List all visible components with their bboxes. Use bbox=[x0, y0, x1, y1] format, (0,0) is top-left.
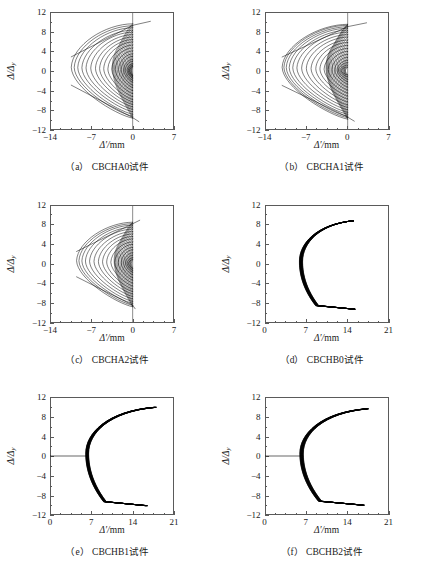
panel-caption: （d） CBCHB0试件 bbox=[215, 352, 429, 366]
y-tick-label: 4 bbox=[42, 432, 47, 441]
x-axis-label: Δ′/mm bbox=[314, 525, 339, 535]
y-axis-label: Δ/Δy bbox=[6, 255, 17, 272]
x-tick-label: 0 bbox=[262, 326, 267, 335]
plot-area: 12840−4−8−12071421 bbox=[265, 205, 389, 323]
x-tick-label: 0 bbox=[48, 518, 53, 527]
y-tick-label: −8 bbox=[36, 491, 46, 500]
y-tick-label: 12 bbox=[37, 393, 46, 402]
y-axis-label: Δ/Δy bbox=[6, 63, 17, 80]
curve-layer bbox=[50, 397, 174, 515]
x-tick-label: 21 bbox=[384, 326, 393, 335]
panel-a: Δ/ΔyΔ′/mm（a） CBCHA0试件12840−4−8−12−14−707 bbox=[0, 0, 215, 193]
y-tick-label: 8 bbox=[42, 27, 47, 36]
y-tick-label: 8 bbox=[256, 27, 261, 36]
y-tick-label: 4 bbox=[42, 47, 47, 56]
panel-d: Δ/ΔyΔ′/mm（d） CBCHB0试件12840−4−8−12071421 bbox=[215, 193, 429, 386]
y-tick-label: −8 bbox=[251, 298, 261, 307]
x-tick-major bbox=[389, 319, 390, 323]
y-tick-major bbox=[265, 323, 269, 324]
y-tick-label: 4 bbox=[256, 47, 261, 56]
x-axis-label: Δ′/mm bbox=[314, 333, 339, 343]
y-tick-label: −8 bbox=[36, 106, 46, 115]
x-tick-label: −14 bbox=[43, 133, 57, 142]
x-tick-major bbox=[389, 511, 390, 515]
y-tick-label: −4 bbox=[36, 86, 46, 95]
y-tick-label: 12 bbox=[37, 8, 46, 17]
y-tick-label: 4 bbox=[256, 432, 261, 441]
y-tick-label: −4 bbox=[251, 279, 261, 288]
y-tick-label: 0 bbox=[256, 259, 261, 268]
x-tick-label: 0 bbox=[262, 518, 267, 527]
y-axis-label: Δ/Δy bbox=[220, 255, 231, 272]
x-tick-label: 7 bbox=[304, 326, 309, 335]
y-axis-label: Δ/Δy bbox=[6, 448, 17, 465]
curve-layer bbox=[50, 12, 174, 130]
y-tick-label: 12 bbox=[252, 200, 261, 209]
panel-caption: （f） CBCHB2试件 bbox=[215, 544, 429, 558]
y-tick-label: 12 bbox=[37, 200, 46, 209]
panel-caption: （a） CBCHA0试件 bbox=[0, 159, 215, 173]
y-tick-major bbox=[50, 515, 54, 516]
y-tick-label: 8 bbox=[42, 220, 47, 229]
x-tick-label: −7 bbox=[87, 326, 97, 335]
y-tick-label: −8 bbox=[251, 491, 261, 500]
x-tick-major bbox=[389, 126, 390, 130]
y-tick-label: −4 bbox=[251, 86, 261, 95]
x-tick-label: 0 bbox=[130, 133, 135, 142]
y-tick-label: −12 bbox=[246, 318, 260, 327]
x-tick-label: 0 bbox=[345, 133, 350, 142]
y-tick-label: 12 bbox=[252, 393, 261, 402]
y-tick-label: −12 bbox=[32, 511, 46, 520]
x-tick-label: 21 bbox=[170, 518, 179, 527]
plot-area: 12840−4−8−12071421 bbox=[50, 397, 174, 515]
y-tick-label: 8 bbox=[256, 220, 261, 229]
x-tick-major bbox=[174, 126, 175, 130]
y-tick-major bbox=[265, 515, 269, 516]
y-tick-label: 8 bbox=[256, 412, 261, 421]
y-tick-label: −12 bbox=[246, 511, 260, 520]
y-tick-label: 4 bbox=[256, 239, 261, 248]
y-tick-label: 0 bbox=[42, 67, 47, 76]
y-tick-major bbox=[50, 323, 54, 324]
plot-area: 12840−4−8−12−14−707 bbox=[50, 12, 174, 130]
panel-caption: （e） CBCHB1试件 bbox=[0, 544, 215, 558]
y-tick-label: −8 bbox=[36, 298, 46, 307]
x-axis-label: Δ′/mm bbox=[99, 333, 124, 343]
y-tick-label: 0 bbox=[42, 452, 47, 461]
panel-f: Δ/ΔyΔ′/mm（f） CBCHB2试件12840−4−8−12071421 bbox=[215, 385, 429, 578]
x-tick-label: −7 bbox=[301, 133, 311, 142]
y-tick-label: 0 bbox=[256, 67, 261, 76]
y-tick-label: 0 bbox=[42, 259, 47, 268]
x-axis-label: Δ′/mm bbox=[314, 140, 339, 150]
panel-caption: （b） CBCHA1试件 bbox=[215, 159, 429, 173]
panel-b: Δ/ΔyΔ′/mm（b） CBCHA1试件12840−4−8−12−14−707 bbox=[215, 0, 429, 193]
x-tick-major bbox=[174, 511, 175, 515]
plot-area: 12840−4−8−12071421 bbox=[265, 397, 389, 515]
x-tick-label: 14 bbox=[343, 518, 352, 527]
plot-area: 12840−4−8−12−14−707 bbox=[50, 205, 174, 323]
plot-area: 12840−4−8−12−14−707 bbox=[265, 12, 389, 130]
x-tick-label: −7 bbox=[87, 133, 97, 142]
curve-layer bbox=[50, 205, 174, 323]
x-tick-label: 7 bbox=[386, 133, 391, 142]
x-tick-label: 14 bbox=[128, 518, 137, 527]
y-axis-label: Δ/Δy bbox=[220, 448, 231, 465]
x-tick-major bbox=[174, 319, 175, 323]
curve-layer bbox=[265, 397, 389, 515]
y-tick-major bbox=[265, 130, 269, 131]
y-tick-label: −4 bbox=[251, 471, 261, 480]
y-tick-label: 8 bbox=[42, 412, 47, 421]
panel-c: Δ/ΔyΔ′/mm（c） CBCHA2试件12840−4−8−12−14−707 bbox=[0, 193, 215, 386]
y-axis-label: Δ/Δy bbox=[220, 63, 231, 80]
x-tick-label: 7 bbox=[304, 518, 309, 527]
x-tick-label: 14 bbox=[343, 326, 352, 335]
panel-caption: （c） CBCHA2试件 bbox=[0, 352, 215, 366]
panel-e: Δ/ΔyΔ′/mm（e） CBCHB1试件12840−4−8−12071421 bbox=[0, 385, 215, 578]
y-tick-major bbox=[50, 130, 54, 131]
curve-layer bbox=[265, 205, 389, 323]
x-tick-label: 21 bbox=[384, 518, 393, 527]
x-tick-label: 0 bbox=[130, 326, 135, 335]
x-tick-label: 7 bbox=[89, 518, 94, 527]
y-tick-label: 4 bbox=[42, 239, 47, 248]
y-tick-label: −4 bbox=[36, 471, 46, 480]
